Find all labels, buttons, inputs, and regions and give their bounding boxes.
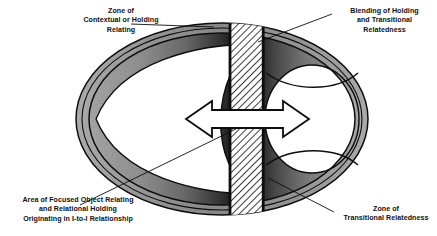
label-line: and Transitional	[333, 16, 436, 25]
label-line: and Relational Holding	[2, 205, 154, 214]
label-line: Transitional Relatedness	[336, 214, 436, 223]
label-focused-object: Area of Focused Object Relating and Rela…	[2, 196, 154, 224]
label-blending: Blending of Holding and Transitional Rel…	[333, 7, 436, 35]
label-line: Zone of	[336, 205, 436, 214]
diagram-figure: Zone of Contextual or Holding Relating B…	[0, 0, 437, 236]
label-line: Zone of	[60, 7, 182, 16]
label-line: Originating in I-to-I Relationship	[2, 215, 154, 224]
label-line: Contextual or Holding	[60, 16, 182, 25]
label-line: Area of Focused Object Relating	[2, 196, 154, 205]
label-zone-transitional: Zone of Transitional Relatedness	[336, 205, 436, 224]
label-line: Relatedness	[333, 26, 436, 35]
label-zone-contextual: Zone of Contextual or Holding Relating	[60, 7, 182, 35]
label-line: Relating	[60, 26, 182, 35]
label-line: Blending of Holding	[333, 7, 436, 16]
